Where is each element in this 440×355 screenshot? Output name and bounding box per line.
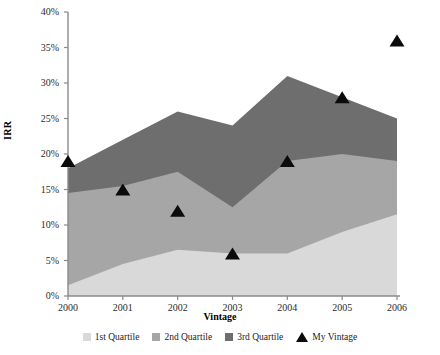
irr-vintage-area-chart: IRR Vintage 0%5%10%15%20%25%30%35%40% 20…: [0, 0, 440, 355]
legend-item[interactable]: 1st Quartile: [83, 332, 140, 342]
square-swatch-icon: [83, 333, 91, 341]
my-vintage-marker: [61, 155, 76, 167]
square-swatch-icon: [152, 333, 160, 341]
legend-item[interactable]: 2nd Quartile: [152, 332, 212, 342]
legend-item[interactable]: 3rd Quartile: [225, 332, 283, 342]
legend-item[interactable]: My Vintage: [296, 332, 357, 342]
plot-area: [0, 0, 440, 355]
legend-label: 1st Quartile: [95, 332, 140, 342]
square-swatch-icon: [225, 333, 233, 341]
triangle-marker-icon: [296, 332, 308, 342]
my-vintage-marker: [390, 34, 405, 46]
chart-legend: 1st Quartile2nd Quartile3rd QuartileMy V…: [0, 332, 440, 342]
legend-label: 2nd Quartile: [164, 332, 212, 342]
legend-label: 3rd Quartile: [237, 332, 283, 342]
legend-label: My Vintage: [312, 332, 357, 342]
